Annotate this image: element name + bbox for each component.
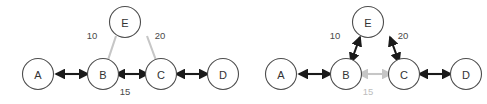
weight-label-C-E: 20 [398, 30, 409, 41]
weight-label-B-C: 15 [363, 86, 374, 97]
node-D-label: D [462, 69, 470, 81]
weight-label-C-E: 20 [155, 30, 166, 41]
panel-right-graph: A B C D E 10 20 15 [243, 0, 487, 104]
node-C[interactable]: C [389, 59, 420, 90]
node-C[interactable]: C [146, 59, 177, 90]
weight-label-B-C: 15 [120, 86, 131, 97]
node-A-label: A [34, 69, 42, 81]
panel-left-graph: A B C D E 10 20 15 [0, 0, 244, 104]
node-E-label: E [364, 17, 371, 29]
graph-figure: A B C D E 10 20 15 [0, 0, 487, 104]
node-D[interactable]: D [451, 59, 482, 90]
node-B[interactable]: B [88, 59, 119, 90]
node-C-label: C [157, 69, 165, 81]
node-A[interactable]: A [266, 59, 297, 90]
edge-C-E [390, 37, 399, 62]
node-E[interactable]: E [353, 7, 384, 38]
node-D[interactable]: D [208, 59, 239, 90]
panel-right: A B C D E 10 20 15 [243, 0, 487, 104]
node-B-label: B [342, 69, 349, 81]
node-B[interactable]: B [331, 59, 362, 90]
node-A-label: A [277, 69, 285, 81]
node-E-label: E [121, 17, 128, 29]
node-B-label: B [99, 69, 106, 81]
panel-left: A B C D E 10 20 15 [0, 0, 244, 104]
node-C-label: C [400, 69, 408, 81]
node-D-label: D [219, 69, 227, 81]
edge-B-E [351, 37, 360, 62]
node-E[interactable]: E [110, 7, 141, 38]
weight-label-B-E: 10 [330, 30, 341, 41]
weight-label-B-E: 10 [87, 30, 98, 41]
node-A[interactable]: A [23, 59, 54, 90]
